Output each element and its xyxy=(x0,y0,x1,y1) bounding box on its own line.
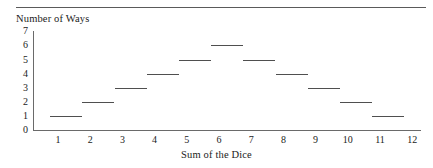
segment-sum-12 xyxy=(372,116,404,117)
y-tick-label-5: 5 xyxy=(14,55,28,65)
x-tick-label-3: 3 xyxy=(111,135,133,145)
segment-sum-4 xyxy=(115,88,147,89)
x-tick-label-11: 11 xyxy=(369,135,391,145)
segment-sum-8 xyxy=(243,60,275,61)
segment-sum-9 xyxy=(276,74,308,75)
x-tick-label-12: 12 xyxy=(401,135,423,145)
x-tick-label-2: 2 xyxy=(79,135,101,145)
chart-figure: Number of Ways 76543210 123456789101112 … xyxy=(0,0,433,168)
segment-sum-5 xyxy=(147,74,179,75)
y-tick-label-3: 3 xyxy=(14,83,28,93)
x-tick-label-1: 1 xyxy=(47,135,69,145)
x-tick-label-10: 10 xyxy=(337,135,359,145)
segment-sum-2 xyxy=(50,116,82,117)
segment-sum-10 xyxy=(308,88,340,89)
y-tick-label-4: 4 xyxy=(14,69,28,79)
y-tick-label-7: 7 xyxy=(14,26,28,36)
x-tick-label-6: 6 xyxy=(208,135,230,145)
segment-sum-3 xyxy=(82,102,114,103)
x-axis-line xyxy=(33,130,421,131)
y-tick-label-2: 2 xyxy=(14,97,28,107)
x-axis-title: Sum of the Dice xyxy=(0,149,433,160)
segment-sum-11 xyxy=(340,102,372,103)
x-tick-label-5: 5 xyxy=(176,135,198,145)
x-tick-label-8: 8 xyxy=(272,135,294,145)
segment-sum-6 xyxy=(179,60,211,61)
y-tick-label-6: 6 xyxy=(14,40,28,50)
y-tick-label-0: 0 xyxy=(14,125,28,135)
x-tick-label-9: 9 xyxy=(305,135,327,145)
y-axis-line xyxy=(33,31,34,131)
plot-area: 76543210 123456789101112 xyxy=(0,0,433,168)
x-tick-label-7: 7 xyxy=(240,135,262,145)
x-tick-label-4: 4 xyxy=(144,135,166,145)
y-tick-label-1: 1 xyxy=(14,111,28,121)
segment-sum-7 xyxy=(211,45,243,46)
